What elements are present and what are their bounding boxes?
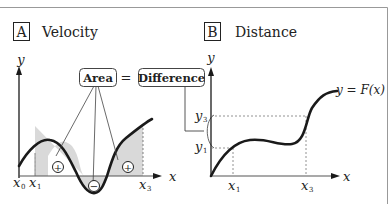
panel-b-x-label: x <box>343 169 351 184</box>
leader-3 <box>98 86 118 160</box>
x1-label: x <box>228 178 236 193</box>
area-label: Area <box>82 71 113 85</box>
panel-a-x-label: x <box>169 169 177 184</box>
x-axis-arrow-icon <box>331 173 340 179</box>
x-axis-arrow-icon <box>153 173 162 179</box>
svg-text:3: 3 <box>147 185 151 193</box>
y1-label: y <box>194 139 203 154</box>
svg-text:−: − <box>90 181 98 192</box>
badge-b: B <box>207 24 217 40</box>
panel-b-y-label: y <box>206 50 215 65</box>
svg-text:1: 1 <box>236 186 240 194</box>
svg-text:+: + <box>124 162 132 173</box>
equals-sign: = <box>121 70 132 85</box>
y3-label: y <box>194 108 203 123</box>
x3-label: x <box>301 178 309 193</box>
svg-text:1: 1 <box>203 147 207 155</box>
panel-a-title: Velocity <box>41 24 98 40</box>
difference-label: Difference <box>138 71 205 85</box>
leader-2 <box>93 86 96 186</box>
panel-a-y-label: y <box>16 52 25 67</box>
diagram-canvas: A Velocity y x + − + x 0 x 1 x 3 Area = … <box>0 0 390 204</box>
svg-text:1: 1 <box>37 183 41 191</box>
leader-1 <box>56 86 94 156</box>
x3-label: x <box>139 177 147 192</box>
x0-label: x <box>13 175 21 190</box>
y-axis-arrow-icon <box>208 67 214 76</box>
svg-text:+: + <box>54 162 62 173</box>
x1-label: x <box>29 175 37 190</box>
svg-text:0: 0 <box>21 183 25 191</box>
badge-a: A <box>15 24 27 40</box>
y-axis-arrow-icon <box>16 66 22 75</box>
distance-curve <box>211 91 337 176</box>
svg-text:3: 3 <box>203 116 207 124</box>
velocity-distance-diagram: A Velocity y x + − + x 0 x 1 x 3 Area = … <box>0 0 390 204</box>
svg-text:3: 3 <box>309 186 313 194</box>
curve-label: y = F(x) <box>335 83 385 97</box>
panel-b-title: Distance <box>235 24 297 40</box>
